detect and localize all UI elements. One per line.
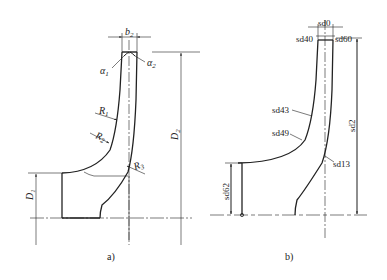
figure-b-labels: sd0 sd40 sd60 sd43 sd49 sd13 sd2 sd62 b): [221, 18, 357, 263]
caption-a: a): [107, 251, 115, 263]
label-sd60: sd60: [335, 34, 353, 44]
hub-profile-b: [295, 40, 333, 215]
label-r2: R2: [93, 129, 108, 145]
label-r3: R3: [131, 158, 146, 174]
caption-b: b): [285, 251, 293, 263]
label-alpha1: α1: [100, 65, 109, 78]
inlet-thin-arc: [84, 172, 128, 176]
label-sd43: sd43: [272, 105, 290, 115]
sd49-leader: [290, 134, 302, 140]
alpha1-leader: [112, 56, 124, 68]
shroud-profile-b: [238, 40, 318, 163]
label-sd0: sd0: [318, 18, 331, 28]
impeller-meridional-diagrams: b2 α1 α2 R1 R2 R3 D2 D1 a): [0, 0, 387, 280]
label-sd13: sd13: [333, 159, 351, 169]
figure-a-labels: b2 α1 α2 R1 R2 R3 D2 D1 a): [24, 26, 182, 263]
label-sd62: sd62: [221, 183, 231, 200]
label-d1: D1: [24, 189, 37, 201]
label-alpha2: α2: [147, 57, 156, 70]
label-sd2: sd2: [347, 119, 357, 132]
label-sd40: sd40: [296, 34, 314, 44]
shroud-profile-a: [62, 52, 122, 173]
label-sd49: sd49: [272, 128, 290, 138]
sd43-leader: [292, 110, 312, 116]
label-r1: R1: [98, 105, 109, 118]
label-d2: D2: [169, 129, 182, 141]
